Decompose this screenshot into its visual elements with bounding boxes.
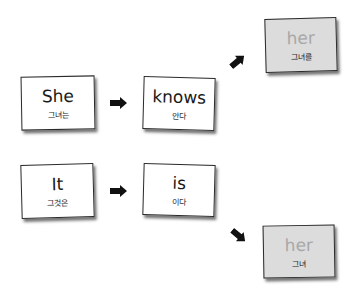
card-it: It 그것은	[20, 163, 94, 219]
word-korean: 그녀는	[48, 112, 69, 120]
card-knows: knows 안다	[142, 76, 215, 131]
word-english: is	[172, 175, 186, 192]
word-english: It	[51, 176, 63, 193]
card-she: She 그녀는	[21, 75, 96, 130]
card-is: is 이다	[142, 163, 215, 217]
word-korean: 그녀를	[291, 54, 312, 63]
word-korean: 이다	[172, 199, 186, 207]
arrow-right-icon	[110, 185, 128, 197]
arrow-down-right-icon	[228, 226, 250, 247]
word-korean: 그녀	[292, 260, 306, 268]
word-korean: 안다	[172, 112, 186, 120]
word-english: her	[285, 236, 314, 253]
word-english: She	[42, 88, 74, 106]
word-english: her	[286, 30, 315, 48]
word-english: knows	[152, 88, 206, 106]
card-her-complement: her 그녀	[263, 224, 336, 278]
arrow-right-icon	[110, 97, 128, 109]
word-korean: 그것은	[47, 200, 68, 209]
card-her-object: her 그녀를	[264, 17, 337, 73]
arrow-up-right-icon	[227, 51, 249, 72]
